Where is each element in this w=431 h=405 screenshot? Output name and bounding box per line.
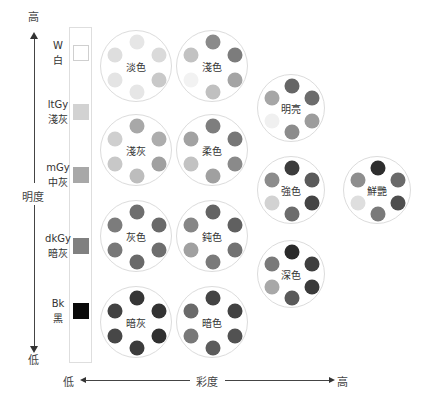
color-dot: [184, 156, 199, 171]
color-dot: [206, 119, 221, 134]
color-dot: [227, 242, 242, 257]
gray-name: 暗灰: [38, 246, 78, 261]
color-dot: [351, 172, 366, 187]
tone-circle: 灰色: [100, 200, 172, 272]
color-dot: [285, 79, 300, 94]
color-dot: [108, 328, 123, 343]
gray-label: ltGy淺灰: [38, 97, 78, 127]
color-dot: [184, 47, 199, 62]
color-dot: [108, 156, 123, 171]
color-dot: [108, 131, 123, 146]
color-dot: [206, 205, 221, 220]
color-dot: [151, 156, 166, 171]
gray-code: ltGy: [38, 97, 78, 112]
color-dot: [108, 242, 123, 257]
color-dot: [304, 90, 319, 105]
color-dot: [206, 85, 221, 100]
color-dot: [227, 47, 242, 62]
color-dot: [184, 131, 199, 146]
color-dot: [130, 35, 145, 50]
gray-label: Bk黑: [38, 296, 78, 326]
color-dot: [265, 90, 280, 105]
lightness-axis-up-line: [34, 38, 35, 183]
gray-code: mGy: [38, 160, 78, 175]
color-dot: [130, 255, 145, 270]
color-dot: [227, 217, 242, 232]
color-dot: [108, 217, 123, 232]
color-dot: [130, 85, 145, 100]
color-dot: [206, 255, 221, 270]
tone-circle: 明亮: [257, 74, 325, 142]
tone-circle: 暗灰: [100, 286, 172, 358]
chroma-axis-title: 彩度: [196, 373, 218, 389]
color-dot: [151, 303, 166, 318]
color-dot: [151, 47, 166, 62]
color-dot: [371, 207, 386, 222]
tone-circle: 鈍色: [176, 200, 248, 272]
color-dot: [265, 256, 280, 271]
color-dot: [206, 35, 221, 50]
gray-name: 黑: [38, 311, 78, 326]
color-dot: [130, 169, 145, 184]
color-dot: [304, 172, 319, 187]
tone-circle: 深色: [257, 240, 325, 308]
lightness-axis-title: 明度: [22, 188, 44, 204]
color-dot: [151, 217, 166, 232]
gray-swatch: [73, 303, 89, 319]
tone-circle: 鮮艷: [343, 156, 411, 224]
color-dot: [130, 291, 145, 306]
color-dot: [227, 72, 242, 87]
color-dot: [285, 125, 300, 140]
color-dot: [184, 72, 199, 87]
color-dot: [265, 195, 280, 210]
color-dot: [151, 242, 166, 257]
gray-swatch: [73, 45, 89, 61]
gray-code: dkGy: [38, 231, 78, 246]
color-dot: [227, 156, 242, 171]
color-dot: [151, 328, 166, 343]
color-dot: [130, 119, 145, 134]
color-dot: [285, 207, 300, 222]
tone-circle: 柔色: [176, 114, 248, 186]
color-dot: [304, 113, 319, 128]
tone-circle: 強色: [257, 156, 325, 224]
gray-swatch: [73, 104, 89, 120]
color-dot: [184, 242, 199, 257]
color-dot: [304, 195, 319, 210]
tone-circle: 淺色: [176, 30, 248, 102]
color-dot: [227, 131, 242, 146]
lightness-high-label: 高: [28, 8, 39, 24]
chroma-axis-left-line: [85, 380, 190, 381]
gray-label: mGy中灰: [38, 160, 78, 190]
color-dot: [390, 172, 405, 187]
color-dot: [265, 172, 280, 187]
color-dot: [351, 195, 366, 210]
color-dot: [285, 161, 300, 176]
color-dot: [304, 256, 319, 271]
color-dot: [304, 279, 319, 294]
lightness-low-label: 低: [28, 351, 39, 367]
color-dot: [206, 169, 221, 184]
arrow-right-icon: [329, 377, 335, 383]
gray-label: dkGy暗灰: [38, 231, 78, 261]
tone-circle: 暗色: [176, 286, 248, 358]
color-dot: [151, 131, 166, 146]
color-dot: [390, 195, 405, 210]
gray-code: Bk: [38, 296, 78, 311]
tone-circle: 淺灰: [100, 114, 172, 186]
color-dot: [108, 47, 123, 62]
chroma-high-label: 高: [337, 373, 348, 389]
arrow-up-icon: [30, 32, 38, 39]
color-dot: [285, 245, 300, 260]
color-dot: [227, 303, 242, 318]
gray-label: W白: [38, 38, 78, 68]
color-dot: [184, 217, 199, 232]
chroma-low-label: 低: [63, 373, 74, 389]
gray-name: 淺灰: [38, 112, 78, 127]
gray-name: 白: [38, 53, 78, 68]
color-dot: [206, 341, 221, 356]
color-dot: [227, 328, 242, 343]
color-dot: [184, 328, 199, 343]
color-dot: [206, 291, 221, 306]
tone-circle: 淡色: [100, 30, 172, 102]
